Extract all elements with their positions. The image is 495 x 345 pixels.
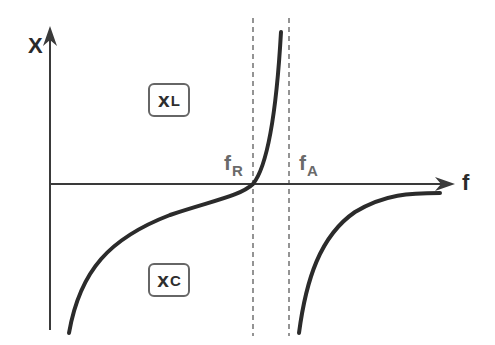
x-axis-label: f bbox=[462, 172, 469, 194]
y-axis-label: X bbox=[28, 35, 43, 57]
fr-label-main: f bbox=[224, 151, 231, 174]
reactance-diagram: X f fR fA xL xC bbox=[0, 0, 495, 345]
fr-label-sub: R bbox=[232, 162, 243, 179]
fa-label-main: f bbox=[299, 151, 306, 174]
fa-label: fA bbox=[299, 152, 318, 178]
xl-label-main: x bbox=[158, 88, 170, 112]
reactance-curve-right bbox=[299, 193, 440, 333]
inductive-region-label: xL bbox=[148, 83, 190, 117]
capacitive-region-label: xC bbox=[148, 263, 190, 297]
xl-label-sub: L bbox=[171, 92, 180, 109]
diagram-canvas bbox=[0, 0, 495, 345]
fr-label: fR bbox=[224, 152, 243, 178]
fa-label-sub: A bbox=[307, 162, 318, 179]
xc-label-sub: C bbox=[170, 272, 181, 289]
xc-label-main: x bbox=[157, 268, 169, 292]
